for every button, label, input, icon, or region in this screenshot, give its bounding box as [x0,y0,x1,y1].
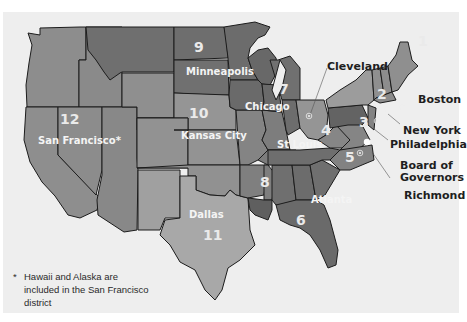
district-2-region [326,70,374,108]
district-number: 12 [60,112,79,126]
district-number: 5 [345,150,355,164]
city-label-kansas-city: Kansas City [181,131,247,141]
district-number: 8 [260,175,270,189]
board-of-governors-marker [364,139,370,145]
city-label-dallas: Dallas [189,210,224,220]
district-number: 6 [296,213,306,227]
district-12-region [26,27,86,107]
city-label-richmond: Richmond [404,190,465,201]
city-label-st-louis: St Louis [277,140,322,150]
footnote-marker: * [13,270,17,283]
city-label-new-york: New York [403,125,461,136]
label-board-of-governors-2: Governors [400,172,464,183]
city-label-san-francisco: San Francisco* [38,136,121,146]
district-number: 7 [279,82,289,96]
city-label-minneapolis: Minneapolis [186,67,254,77]
footnote-text: Hawaii and Alaska are included in the Sa… [24,270,154,309]
label-board-of-governors-1: Board of [400,160,453,171]
city-label-boston: Boston [418,94,461,105]
city-label-philadelphia: Philadelphia [390,139,467,150]
district-number: 2 [377,87,387,101]
district-number: 1 [418,34,428,48]
district-number: 3 [359,115,369,129]
district-number: 9 [194,40,204,54]
city-label-atlanta: Atlanta [311,195,352,205]
district-number: 10 [189,106,208,120]
city-label-chicago: Chicago [245,102,290,112]
district-number: 11 [203,228,222,242]
city-label-cleveland: Cleveland [327,61,388,72]
district-number: 4 [321,123,331,137]
